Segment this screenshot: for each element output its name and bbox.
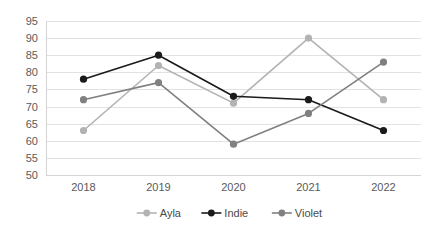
legend-marker-icon-violet — [278, 210, 285, 217]
data-point-ayla-2022 — [380, 96, 387, 103]
data-point-indie-2022 — [380, 127, 387, 134]
x-tick-label-2022: 2022 — [371, 181, 395, 193]
y-axis-tick-labels: 50556065707580859095 — [26, 15, 38, 181]
data-point-ayla-2021 — [305, 35, 312, 42]
legend-item-ayla[interactable]: Ayla — [137, 207, 182, 219]
y-tick-label-55: 55 — [26, 152, 38, 164]
legend-item-indie[interactable]: Indie — [201, 207, 248, 219]
data-point-indie-2020 — [230, 93, 237, 100]
y-tick-label-60: 60 — [26, 135, 38, 147]
data-point-violet-2018 — [80, 96, 87, 103]
legend-label-violet: Violet — [295, 207, 322, 219]
x-tick-label-2020: 2020 — [221, 181, 245, 193]
y-tick-label-70: 70 — [26, 101, 38, 113]
y-tick-label-65: 65 — [26, 118, 38, 130]
data-point-indie-2019 — [155, 52, 162, 59]
data-point-violet-2020 — [230, 141, 237, 148]
x-tick-label-2021: 2021 — [296, 181, 320, 193]
data-point-indie-2021 — [305, 96, 312, 103]
line-chart: 50556065707580859095 2018201920202021202… — [0, 0, 434, 231]
chart-legend: AylaIndieViolet — [137, 207, 322, 219]
legend-label-indie: Indie — [224, 207, 248, 219]
data-point-ayla-2018 — [80, 127, 87, 134]
x-tick-label-2018: 2018 — [71, 181, 95, 193]
chart-canvas: 50556065707580859095 2018201920202021202… — [0, 0, 434, 231]
x-tick-label-2019: 2019 — [146, 181, 170, 193]
legend-marker-icon-indie — [208, 210, 215, 217]
data-point-violet-2019 — [155, 79, 162, 86]
legend-label-ayla: Ayla — [160, 207, 182, 219]
data-point-violet-2021 — [305, 110, 312, 117]
legend-marker-icon-ayla — [143, 210, 150, 217]
data-point-indie-2018 — [80, 76, 87, 83]
data-point-ayla-2020 — [230, 100, 237, 107]
data-point-ayla-2019 — [155, 62, 162, 69]
series-line-ayla — [84, 38, 384, 130]
y-tick-label-85: 85 — [26, 49, 38, 61]
y-tick-label-95: 95 — [26, 15, 38, 27]
x-axis-tick-labels: 20182019202020212022 — [71, 181, 395, 193]
legend-item-violet[interactable]: Violet — [272, 207, 322, 219]
y-tick-label-90: 90 — [26, 32, 38, 44]
y-tick-label-75: 75 — [26, 83, 38, 95]
data-point-violet-2022 — [380, 58, 387, 65]
y-tick-label-80: 80 — [26, 66, 38, 78]
y-tick-label-50: 50 — [26, 169, 38, 181]
series-ayla — [80, 35, 387, 135]
data-series-group — [80, 35, 387, 148]
